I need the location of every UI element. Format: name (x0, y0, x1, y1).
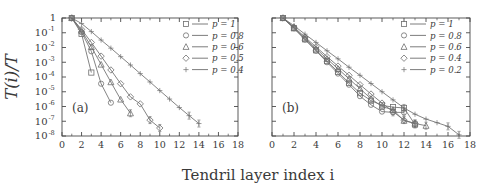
x-tick-label: 10 (154, 139, 166, 150)
x-tick-label: 4 (98, 139, 104, 150)
series-diamond (280, 15, 418, 127)
y-tick-label: 10-5 (35, 84, 55, 97)
marker-plus (401, 67, 406, 72)
x-tick-label: 8 (137, 139, 143, 150)
series-circle (69, 15, 113, 105)
marker-triangle (401, 44, 407, 50)
x-axis-label: Tendril layer index i (182, 166, 335, 184)
y-axis-label: T(i)/T (2, 52, 21, 100)
figure-container: 024681012141618110-110-210-310-410-510-6… (0, 0, 489, 186)
y-tick-label: 10-8 (35, 129, 55, 142)
legend-label: p = 0.6 (430, 42, 462, 52)
x-tick-label: 12 (173, 139, 185, 150)
x-tick-label: 14 (420, 139, 432, 150)
marker-diamond (401, 55, 407, 61)
panel-label: (a) (72, 101, 89, 115)
y-tick-label: 10-3 (35, 55, 55, 68)
y-tick-exponent: -7 (48, 114, 54, 122)
x-tick-label: 6 (118, 139, 124, 150)
y-tick-label: 10-2 (35, 40, 55, 53)
y-tick-mantissa: 10 (35, 42, 48, 53)
y-tick-mantissa: 10 (35, 86, 48, 97)
x-tick-label: 18 (464, 139, 476, 150)
x-tick-label: 12 (398, 139, 410, 150)
x-tick-label: 2 (79, 139, 85, 150)
x-tick-label: 0 (269, 139, 275, 150)
legend-label: p = 1 (430, 19, 454, 29)
y-tick-exponent: -4 (48, 70, 54, 78)
y-tick-label: 10-6 (35, 99, 55, 112)
y-tick-label: 10-1 (35, 25, 55, 38)
marker-plus (434, 120, 439, 125)
x-tick-label: 14 (193, 139, 205, 150)
y-tick-mantissa: 10 (35, 27, 48, 38)
legend-label: p = 0.8 (430, 31, 462, 41)
marker-circle (401, 33, 406, 38)
y-tick-mantissa: 10 (35, 71, 48, 82)
x-tick-label: 18 (232, 139, 244, 150)
marker-plus (423, 116, 428, 121)
marker-circle (183, 33, 188, 38)
legend-panel_b: p = 1p = 0.8p = 0.6p = 0.4p = 0.2 (401, 19, 463, 75)
x-tick-label: 16 (212, 139, 224, 150)
y-tick-exponent: -6 (48, 99, 54, 107)
y-tick-exponent: -5 (48, 84, 54, 92)
panel-label: (b) (282, 101, 299, 115)
marker-square (401, 21, 406, 26)
legend-label: p = 1 (212, 19, 236, 29)
x-tick-label: 4 (313, 139, 319, 150)
legend-panel_a: p = 1p = 0.8p = 0.6p = 0.5p = 0.4 (183, 19, 245, 75)
marker-plus (412, 112, 417, 117)
x-tick-label: 6 (335, 139, 341, 150)
tendril-layer-figure: 024681012141618110-110-210-310-410-510-6… (0, 0, 489, 186)
marker-triangle (183, 44, 189, 50)
legend-label: p = 0.2 (430, 65, 462, 75)
x-tick-label: 16 (442, 139, 454, 150)
legend-label: p = 0.4 (430, 53, 462, 63)
y-tick-mantissa: 10 (35, 101, 48, 112)
legend-label: p = 0.6 (212, 42, 244, 52)
y-tick-mantissa: 10 (35, 57, 48, 68)
y-tick-exponent: -1 (48, 25, 54, 33)
x-tick-label: 0 (59, 139, 65, 150)
legend-label: p = 0.5 (212, 53, 244, 63)
series-line (283, 18, 404, 112)
series-circle (280, 15, 406, 115)
y-tick-exponent: -3 (48, 55, 54, 63)
y-tick-label: 10-7 (35, 114, 55, 127)
marker-plus (183, 67, 188, 72)
y-tick-mantissa: 10 (35, 116, 48, 127)
marker-square (89, 70, 94, 75)
marker-square (183, 21, 188, 26)
legend-label: p = 0.4 (212, 65, 244, 75)
y-tick-label: 1 (50, 12, 56, 23)
y-tick-exponent: -2 (48, 40, 54, 48)
marker-diamond (183, 55, 189, 61)
y-tick-mantissa: 10 (35, 130, 48, 141)
x-tick-label: 8 (357, 139, 363, 150)
y-tick-exponent: -8 (48, 129, 54, 137)
y-tick-label: 10-4 (35, 70, 55, 83)
marker-circle (108, 100, 113, 105)
x-tick-label: 10 (376, 139, 388, 150)
legend-label: p = 0.8 (212, 31, 244, 41)
x-tick-label: 2 (291, 139, 297, 150)
